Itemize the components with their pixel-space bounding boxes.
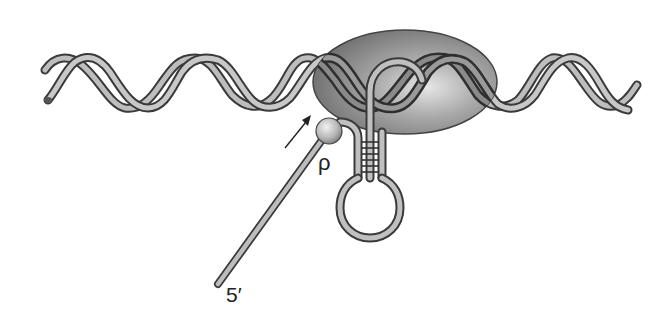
rna-polymerase — [305, 30, 518, 134]
rho-label: ρ — [318, 150, 331, 176]
rho-termination-diagram — [0, 0, 667, 330]
rho-factor — [316, 118, 342, 144]
movement-arrow — [285, 115, 311, 148]
five-prime-label: 5′ — [226, 283, 242, 307]
dna-end-cap — [44, 97, 52, 103]
rna-transcript — [218, 140, 322, 284]
